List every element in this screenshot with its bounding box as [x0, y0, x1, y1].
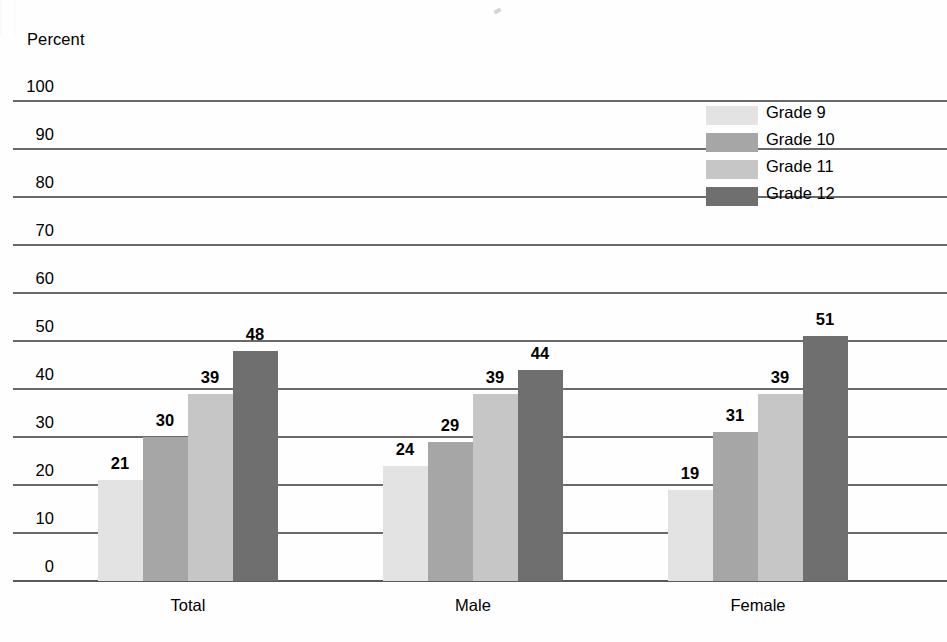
bar-total-grade-11[interactable] [188, 394, 233, 581]
bar-value-label: 24 [382, 440, 428, 459]
y-axis-tick-label: 80 [12, 173, 54, 192]
bar-female-grade-12[interactable] [803, 336, 848, 581]
bar-total-grade-12[interactable] [233, 351, 278, 581]
bar-value-label: 39 [472, 368, 518, 387]
bar-value-label: 39 [757, 368, 803, 387]
bar-value-label: 31 [712, 406, 758, 425]
y-axis-tick-label: 60 [12, 269, 54, 288]
y-axis-tick-label: 90 [12, 125, 54, 144]
y-axis-tick-label: 20 [12, 461, 54, 480]
bar-value-label: 51 [802, 310, 848, 329]
bar-value-label: 39 [187, 368, 233, 387]
y-axis-tick-label: 30 [12, 413, 54, 432]
gridline-70 [13, 244, 947, 246]
category-label-male: Male [413, 596, 533, 615]
category-label-female: Female [698, 596, 818, 615]
bar-male-grade-10[interactable] [428, 442, 473, 581]
bar-value-label: 30 [142, 411, 188, 430]
legend-swatch-icon [706, 187, 758, 206]
bar-female-grade-10[interactable] [713, 432, 758, 581]
bar-value-label: 44 [517, 344, 563, 363]
legend-swatch-icon [706, 133, 758, 152]
y-axis-tick-label: 70 [12, 221, 54, 240]
bar-male-grade-9[interactable] [383, 466, 428, 581]
bar-value-label: 21 [97, 454, 143, 473]
gridline-60 [13, 292, 947, 294]
category-label-total: Total [128, 596, 248, 615]
bar-total-grade-9[interactable] [98, 480, 143, 581]
legend-swatch-icon [706, 106, 758, 125]
y-axis-tick-label: 0 [12, 557, 54, 576]
legend-label: Grade 12 [766, 184, 835, 203]
gridline-100 [13, 100, 947, 102]
y-axis-tick-label: 50 [12, 317, 54, 336]
y-axis-tick-label: 10 [12, 509, 54, 528]
bar-female-grade-11[interactable] [758, 394, 803, 581]
plot-area: 010203040506070809010021303948Total24293… [0, 0, 947, 642]
bar-male-grade-12[interactable] [518, 370, 563, 581]
bar-value-label: 19 [667, 464, 713, 483]
bar-male-grade-11[interactable] [473, 394, 518, 581]
legend-label: Grade 9 [766, 103, 826, 122]
bar-total-grade-10[interactable] [143, 437, 188, 581]
legend-label: Grade 10 [766, 130, 835, 149]
y-axis-tick-label: 100 [12, 77, 54, 96]
bar-value-label: 29 [427, 416, 473, 435]
bar-female-grade-9[interactable] [668, 490, 713, 581]
chart-page: Percent 010203040506070809010021303948To… [0, 0, 947, 642]
y-axis-tick-label: 40 [12, 365, 54, 384]
bar-value-label: 48 [232, 325, 278, 344]
legend-swatch-icon [706, 160, 758, 179]
legend-label: Grade 11 [766, 157, 834, 176]
